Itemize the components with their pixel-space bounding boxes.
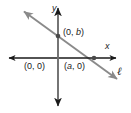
origin-label: (0, 0) (24, 62, 45, 71)
x-intercept-label: (a, 0) (64, 62, 85, 71)
coordinate-plane-figure: y x (0, b) (0, 0) (a, 0) ℓ (0, 0, 131, 113)
y-intercept-point (56, 34, 61, 39)
y-intercept-label: (0, b) (63, 28, 84, 37)
x-intercept-point (92, 56, 97, 61)
y-axis-label: y (52, 4, 57, 13)
figure-svg (0, 0, 131, 113)
line-name-label: ℓ (117, 66, 122, 77)
x-axis-label: x (105, 42, 110, 51)
